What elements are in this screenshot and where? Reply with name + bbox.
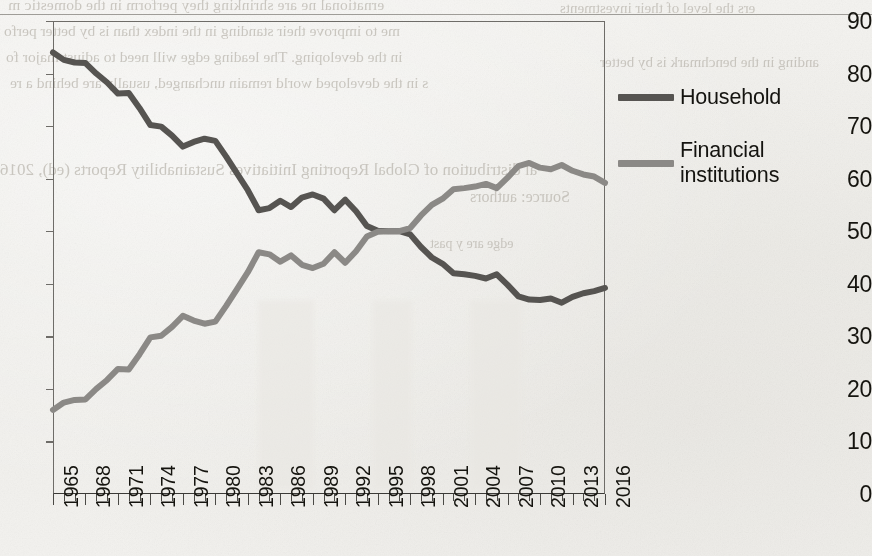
legend-item: Financial institutions [618,138,868,188]
series-line-household [53,53,605,303]
chart-legend: HouseholdFinancial institutions [618,85,868,216]
legend-swatch [618,160,674,167]
legend-swatch [618,94,674,101]
series-line-financial-institutions [53,163,605,410]
line-chart: 0102030405060708090 19651968197119741977… [0,0,872,556]
legend-item: Household [618,85,868,110]
legend-label: Financial institutions [680,138,868,188]
series-lines [0,0,872,556]
legend-label: Household [680,85,781,110]
